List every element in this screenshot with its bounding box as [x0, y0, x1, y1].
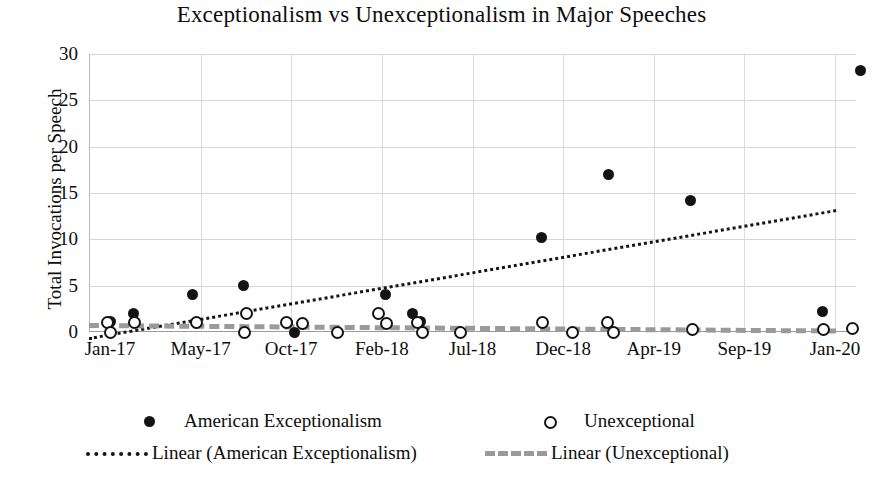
legend-label: Unexceptional: [584, 410, 695, 432]
page-edge: [0, 468, 883, 479]
gridline-vertical: [744, 54, 745, 332]
gridline-vertical: [835, 54, 836, 332]
data-point-american-exceptionalism: [187, 289, 198, 300]
data-point-unexceptional: [240, 307, 253, 320]
y-tick-label: 10: [30, 229, 78, 248]
data-point-unexceptional: [104, 326, 117, 339]
gridline-vertical: [473, 54, 474, 332]
legend-label: Linear (American Exceptionalism): [152, 442, 417, 464]
data-point-american-exceptionalism: [536, 232, 547, 243]
plot-area: [89, 54, 856, 332]
data-point-unexceptional: [686, 323, 699, 336]
y-tick-label: 25: [30, 90, 78, 109]
data-point-american-exceptionalism: [238, 280, 249, 291]
open-circle-icon: [518, 413, 580, 429]
data-point-unexceptional: [380, 317, 393, 330]
data-point-unexceptional: [190, 316, 203, 329]
y-tick-label: 30: [30, 44, 78, 63]
y-tick-label: 20: [30, 137, 78, 156]
data-point-unexceptional: [128, 316, 141, 329]
legend-item-linear-american-exceptionalism: Linear (American Exceptionalism): [86, 440, 417, 464]
data-point-american-exceptionalism: [855, 65, 866, 76]
legend: American Exceptionalism Unexceptional Li…: [0, 398, 883, 468]
legend-label: Linear (Unexceptional): [551, 442, 729, 464]
data-point-unexceptional: [566, 326, 579, 339]
data-point-american-exceptionalism: [817, 306, 828, 317]
data-point-unexceptional: [416, 326, 429, 339]
data-point-unexceptional: [454, 326, 467, 339]
gridline-vertical: [654, 54, 655, 332]
x-tick-label: Jan-20: [780, 339, 883, 359]
y-axis-line: [89, 54, 90, 332]
dotted-line-icon: [86, 445, 148, 461]
legend-item-american-exceptionalism: American Exceptionalism: [118, 408, 382, 432]
gridline-vertical: [291, 54, 292, 332]
data-point-unexceptional: [817, 323, 830, 336]
legend-label: American Exceptionalism: [184, 410, 382, 432]
data-point-unexceptional: [536, 316, 549, 329]
gridline-vertical: [201, 54, 202, 332]
data-point-american-exceptionalism: [603, 169, 614, 180]
data-point-unexceptional: [296, 317, 309, 330]
legend-item-unexceptional: Unexceptional: [518, 408, 695, 432]
data-point-unexceptional: [280, 316, 293, 329]
data-point-unexceptional: [238, 326, 251, 339]
data-point-american-exceptionalism: [380, 289, 391, 300]
y-tick-label: 15: [30, 183, 78, 202]
legend-item-linear-unexceptional: Linear (Unexceptional): [485, 440, 729, 464]
chart-title: Exceptionalism vs Unexceptionalism in Ma…: [0, 2, 883, 28]
dashed-line-icon: [485, 445, 547, 461]
chart-container: Exceptionalism vs Unexceptionalism in Ma…: [0, 0, 883, 479]
data-point-unexceptional: [331, 326, 344, 339]
gridline-vertical: [563, 54, 564, 332]
data-point-american-exceptionalism: [685, 195, 696, 206]
data-point-unexceptional: [607, 326, 620, 339]
filled-circle-icon: [118, 413, 180, 429]
data-point-unexceptional: [846, 322, 859, 335]
y-tick-label: 5: [30, 276, 78, 295]
